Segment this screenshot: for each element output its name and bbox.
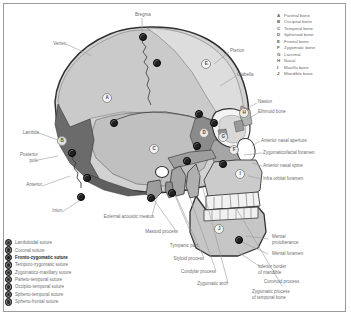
label-inferior-border-of-mandible: Inferior border of mandible bbox=[258, 264, 286, 275]
suture-bullet-icon bbox=[5, 283, 12, 290]
suture-legend: Lambdoidal suture Coronal suture Fronto-… bbox=[5, 239, 125, 306]
suture-legend-row-fronto-zygomatic[interactable]: Fronto-zygomatic suture bbox=[5, 254, 125, 261]
label-tympanic-part: Tympanic part bbox=[142, 243, 198, 249]
label-lambda: Lambda bbox=[6, 130, 39, 136]
label-glabella: Glabella bbox=[237, 72, 254, 78]
suture-label-parieto-temporal: Parieto-temporal suture bbox=[15, 276, 62, 283]
label-zygomatic-arch: Zygomatic arch bbox=[168, 281, 228, 287]
suture-label-spheno-temporal: Spheno-temporal suture bbox=[15, 291, 63, 298]
suture-legend-row-temporo-zygomatic[interactable]: Temporo-zygomatic suture bbox=[5, 261, 125, 268]
suture-legend-row-coronal[interactable]: Coronal suture bbox=[5, 246, 125, 253]
suture-label-zygomatico-maxillary: Zygomatico-maxillary suture bbox=[15, 269, 71, 276]
label-coronoid-process: Coronoid process bbox=[264, 279, 299, 285]
label-nasion: Nasion bbox=[258, 99, 272, 105]
label-mental-protuberance: Mental protuberance bbox=[272, 234, 299, 245]
nasal-aperture bbox=[237, 138, 255, 162]
label-posterior-pole: Posterior pole bbox=[4, 152, 38, 163]
suture-legend-row-spheno-temporal[interactable]: Spheno-temporal suture bbox=[5, 291, 125, 298]
label-mental-foramen: Mental foramen bbox=[272, 251, 303, 257]
external-acoustic-meatus-shape bbox=[156, 167, 169, 178]
suture-legend-row-occipito-temporal[interactable]: Occipito-temporal suture bbox=[5, 283, 125, 290]
suture-label-lambdoidal: Lambdoidal suture bbox=[15, 239, 52, 246]
skull-diagram: A B C D E F G H I J Bregma Vertex Pterio… bbox=[0, 0, 351, 317]
suture-label-occipito-temporal: Occipito-temporal suture bbox=[15, 283, 64, 290]
bone-legend-row-J[interactable]: J Mandible bone bbox=[277, 71, 349, 77]
suture-legend-row-zygomatico-maxillary[interactable]: Zygomatico-maxillary suture bbox=[5, 269, 125, 276]
suture-legend-row-spheno-frontal[interactable]: Spheno-frontal suture bbox=[5, 298, 125, 305]
suture-label-spheno-frontal: Spheno-frontal suture bbox=[15, 298, 58, 305]
label-anterior-nasal-spine: Anterior nasal spine bbox=[263, 163, 303, 169]
suture-bullet-icon bbox=[5, 239, 12, 246]
label-pterion: Pterion bbox=[230, 48, 244, 54]
suture-legend-row-lambdoidal[interactable]: Lambdoidal suture bbox=[5, 239, 125, 246]
suture-label-temporo-zygomatic: Temporo-zygomatic suture bbox=[15, 261, 68, 268]
label-infra-orbital-foramen: Infra orbital foramen bbox=[263, 176, 303, 182]
label-inion: Inion bbox=[38, 208, 62, 214]
label-anterior-nasal-aperture: Anterior nasal aperture bbox=[261, 138, 307, 144]
suture-legend-row-parieto-temporal[interactable]: Parieto-temporal suture bbox=[5, 276, 125, 283]
suture-bullet-icon bbox=[5, 298, 12, 305]
label-styloid-process: Styloid process bbox=[146, 256, 204, 262]
suture-bullet-icon bbox=[5, 246, 12, 253]
label-bregma: Bregma bbox=[126, 12, 160, 18]
suture-bullet-icon bbox=[5, 291, 12, 298]
bone-key-J: J bbox=[277, 71, 284, 77]
suture-bullet-icon bbox=[5, 276, 12, 283]
label-condylar-process: Condylar process bbox=[152, 269, 216, 275]
label-mastoid-process: Mastoid process bbox=[112, 229, 178, 235]
label-zygomatic-process-temporal: Zygomatic process of temporal bone bbox=[252, 289, 290, 300]
label-external-acoustic-meatus: External acoustic meatus bbox=[76, 214, 154, 220]
suture-label-coronal: Coronal suture bbox=[15, 247, 45, 254]
label-zygomaticofacial-foramen: Zygomaticofacial foramen bbox=[263, 150, 315, 156]
suture-bullet-icon bbox=[5, 269, 12, 276]
bone-legend: A Parietal bone B Occipital bone C Tempo… bbox=[277, 13, 349, 78]
label-anterior: Anterior bbox=[8, 182, 42, 188]
ethmoid-bone-region bbox=[234, 120, 244, 132]
suture-bullet-icon bbox=[5, 261, 12, 268]
label-vertex: Vertex bbox=[34, 41, 66, 47]
bone-name-J: Mandible bone bbox=[284, 71, 313, 77]
suture-label-fronto-zygomatic: Fronto-zygomatic suture bbox=[15, 254, 68, 261]
suture-bullet-icon bbox=[5, 254, 12, 261]
label-ethmoid-bone: Ethmoid bone bbox=[258, 109, 286, 115]
